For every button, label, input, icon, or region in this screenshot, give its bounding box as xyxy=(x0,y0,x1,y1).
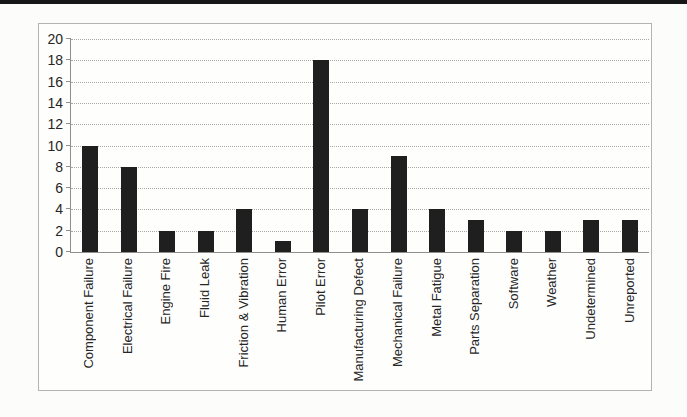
bar-electrical-failure xyxy=(121,167,137,252)
x-label-cell: Unreported xyxy=(610,258,649,388)
y-tick-mark xyxy=(66,230,71,231)
bar-slot xyxy=(71,39,110,252)
bar-parts-separation xyxy=(468,220,484,252)
y-tick-label: 12 xyxy=(29,116,63,132)
x-tick-label: Unreported xyxy=(623,258,637,323)
top-border-band xyxy=(0,0,687,4)
x-tick-label: Engine Fire xyxy=(159,258,173,324)
y-tick-label: 8 xyxy=(29,159,63,175)
bar-slot xyxy=(148,39,187,252)
bar-software xyxy=(506,231,522,252)
bar-slot xyxy=(225,39,264,252)
x-tick-label: Software xyxy=(507,258,521,309)
bar-manufacturing-defect xyxy=(352,209,368,252)
x-tick-label: Human Error xyxy=(275,258,289,332)
bar-component-failure xyxy=(82,146,98,253)
y-tick-mark xyxy=(66,166,71,167)
x-label-cell: Fluid Leak xyxy=(186,258,225,388)
bar-undetermined xyxy=(583,220,599,252)
bar-slot xyxy=(418,39,457,252)
y-tick-label: 10 xyxy=(29,138,63,154)
bar-unreported xyxy=(622,220,638,252)
x-tick-label: Electrical Failure xyxy=(121,258,135,354)
x-axis-category-labels: Component FailureElectrical FailureEngin… xyxy=(70,258,649,388)
bar-slot xyxy=(187,39,226,252)
x-tick-label: Mechanical Failure xyxy=(391,258,405,367)
x-label-cell: Engine Fire xyxy=(147,258,186,388)
x-tick-label: Component Failure xyxy=(82,258,96,369)
bar-slot xyxy=(456,39,495,252)
x-tick-label: Pilot Error xyxy=(314,258,328,316)
bar-slot xyxy=(572,39,611,252)
x-label-cell: Component Failure xyxy=(70,258,109,388)
bar-pilot-error xyxy=(313,60,329,252)
y-tick-label: 16 xyxy=(29,74,63,90)
y-tick-label: 4 xyxy=(29,201,63,217)
y-tick-mark xyxy=(66,145,71,146)
x-label-cell: Undetermined xyxy=(572,258,611,388)
bar-slot xyxy=(110,39,149,252)
y-tick-mark xyxy=(66,102,71,103)
bar-weather xyxy=(545,231,561,252)
bar-slot xyxy=(379,39,418,252)
x-label-cell: Parts Separation xyxy=(456,258,495,388)
y-tick-label: 2 xyxy=(29,223,63,239)
chart-frame: 02468101214161820 Component FailureElect… xyxy=(38,23,652,391)
x-label-cell: Software xyxy=(495,258,534,388)
x-label-cell: Friction & Vibration xyxy=(224,258,263,388)
x-label-cell: Metal Fatigue xyxy=(417,258,456,388)
x-tick-label: Fluid Leak xyxy=(198,258,212,318)
bar-engine-fire xyxy=(159,231,175,252)
bar-fluid-leak xyxy=(198,231,214,252)
x-tick-label: Undetermined xyxy=(584,258,598,340)
bar-slot xyxy=(302,39,341,252)
y-tick-mark xyxy=(66,38,71,39)
bar-human-error xyxy=(275,241,291,252)
y-tick-mark xyxy=(66,123,71,124)
x-label-cell: Weather xyxy=(533,258,572,388)
bar-mechanical-failure xyxy=(391,156,407,252)
x-tick-label: Metal Fatigue xyxy=(430,258,444,337)
x-tick-label: Friction & Vibration xyxy=(237,258,251,368)
bar-slot xyxy=(341,39,380,252)
x-tick-label: Weather xyxy=(545,258,559,307)
y-tick-label: 0 xyxy=(29,244,63,260)
x-label-cell: Manufacturing Defect xyxy=(340,258,379,388)
bar-friction-vibration xyxy=(236,209,252,252)
y-tick-mark xyxy=(66,59,71,60)
bar-metal-fatigue xyxy=(429,209,445,252)
x-tick-label: Manufacturing Defect xyxy=(352,258,366,382)
bar-slot xyxy=(264,39,303,252)
y-tick-label: 18 xyxy=(29,52,63,68)
y-tick-mark xyxy=(66,208,71,209)
x-label-cell: Mechanical Failure xyxy=(379,258,418,388)
y-tick-mark xyxy=(66,251,71,252)
bar-slot xyxy=(533,39,572,252)
plot-area: 02468101214161820 xyxy=(70,39,649,253)
x-label-cell: Pilot Error xyxy=(302,258,341,388)
y-tick-label: 6 xyxy=(29,180,63,196)
x-tick-label: Parts Separation xyxy=(468,258,482,355)
y-tick-label: 20 xyxy=(29,31,63,47)
bar-series xyxy=(71,39,649,252)
y-tick-mark xyxy=(66,187,71,188)
y-tick-mark xyxy=(66,81,71,82)
bar-slot xyxy=(610,39,649,252)
x-label-cell: Electrical Failure xyxy=(109,258,148,388)
x-label-cell: Human Error xyxy=(263,258,302,388)
y-tick-label: 14 xyxy=(29,95,63,111)
bar-slot xyxy=(495,39,534,252)
